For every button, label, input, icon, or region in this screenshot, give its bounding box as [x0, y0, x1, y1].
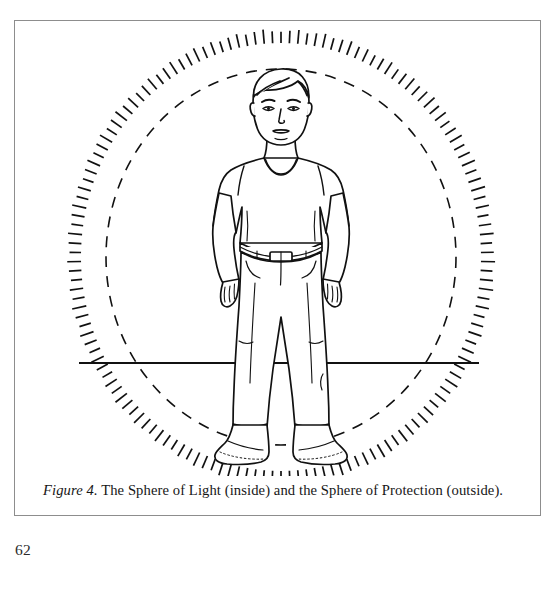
protection-tick [314, 33, 316, 46]
protection-tick [97, 144, 108, 150]
protection-tick [203, 47, 208, 58]
protection-tick [220, 41, 223, 52]
protection-tick [471, 187, 485, 191]
protection-tick [107, 128, 117, 134]
protection-tick [480, 279, 493, 280]
protection-tick [122, 400, 132, 408]
protection-tick [399, 74, 407, 84]
protection-tick [323, 34, 326, 48]
protection-tick [424, 98, 435, 108]
pupil-left [267, 107, 270, 110]
protection-tick [179, 59, 185, 69]
protection-tick [377, 445, 384, 457]
protection-tick [385, 62, 392, 74]
protection-tick [424, 407, 433, 415]
protection-tick [412, 419, 420, 427]
protection-tick [289, 471, 290, 476]
protection-tick [80, 332, 93, 337]
protection-tick [399, 430, 408, 441]
protection-tick [362, 49, 368, 61]
protection-tick [69, 243, 82, 244]
protection-tick [128, 98, 138, 107]
protection-tick [392, 69, 399, 78]
protection-tick [228, 464, 231, 476]
protection-tick [115, 393, 126, 402]
protection-tick [450, 135, 462, 142]
protection-tick [129, 407, 138, 415]
protection-tick [254, 32, 256, 45]
protection-tick [289, 31, 290, 43]
protection-tick [77, 196, 89, 199]
sphere-of-light-diagram [15, 21, 542, 476]
protection-tick [171, 440, 177, 449]
protection-tick [306, 33, 308, 44]
protection-tick [111, 120, 122, 128]
protection-tick [405, 79, 414, 90]
shirt-fold-1 [247, 211, 248, 241]
protection-tick [163, 435, 170, 445]
protection-tick [123, 106, 132, 114]
protection-tick [477, 215, 488, 217]
protection-tick [468, 178, 480, 182]
protection-tick [149, 425, 156, 434]
protection-tick [458, 152, 470, 158]
protection-tick [298, 30, 299, 44]
protection-tick [79, 323, 90, 326]
protection-tick [314, 468, 317, 476]
protection-tick [72, 215, 85, 217]
mouth [273, 130, 289, 133]
protection-tick [69, 270, 81, 271]
protection-tick [377, 59, 383, 70]
protection-tick [115, 112, 126, 121]
protection-tick [142, 86, 150, 95]
protection-tick [339, 40, 343, 52]
protection-tick [163, 68, 170, 78]
protection-tick [93, 153, 103, 158]
protection-tick [78, 187, 91, 191]
protection-tick [228, 38, 231, 50]
protection-tick [70, 288, 83, 290]
protection-tick [73, 297, 85, 299]
protection-tick [370, 55, 375, 65]
protection-tick [418, 413, 428, 423]
protection-tick [100, 135, 112, 142]
figure-caption: Figure 4. The Sphere of Light (inside) a… [15, 481, 540, 500]
protection-tick [170, 62, 178, 74]
protection-tick [480, 233, 494, 234]
protection-tick [272, 471, 273, 476]
protection-tick [465, 340, 476, 344]
protection-tick [347, 41, 352, 55]
protection-tick [412, 86, 420, 95]
protection-tick [468, 332, 481, 337]
finger-right-2 [332, 286, 333, 302]
protection-tick [430, 400, 439, 407]
protection-tick [458, 356, 471, 362]
finger-right-1 [337, 287, 338, 302]
protection-tick [392, 435, 399, 445]
protection-tick [370, 449, 376, 460]
protection-tick [471, 323, 483, 327]
protection-tick [298, 470, 299, 476]
protection-tick [193, 453, 199, 466]
protection-tick [440, 121, 449, 127]
protection-tick [481, 243, 492, 244]
protection-tick [462, 160, 475, 166]
pupil-right [292, 107, 295, 110]
protection-tick [263, 470, 264, 476]
protection-tick [148, 79, 157, 90]
shirt-fold-2 [314, 211, 315, 241]
protection-tick [479, 288, 493, 290]
protection-tick [355, 456, 359, 466]
protection-tick [306, 469, 308, 476]
figure-illustration [15, 21, 542, 476]
protection-tick [156, 75, 163, 84]
protection-tick [71, 279, 82, 280]
protection-tick [87, 160, 100, 166]
protection-tick [134, 413, 144, 423]
protection-tick [83, 179, 94, 183]
protection-tick [142, 419, 151, 428]
protection-tick [237, 466, 240, 476]
protection-tick [418, 92, 427, 101]
finger-left-1 [224, 287, 225, 302]
protection-tick [72, 306, 86, 309]
